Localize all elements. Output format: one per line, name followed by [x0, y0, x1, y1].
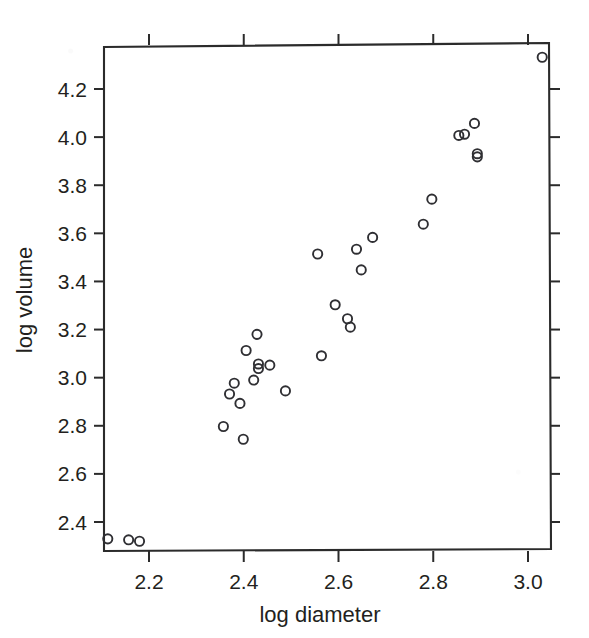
scatter-point	[124, 535, 133, 544]
y-axis-tick-group	[94, 89, 560, 522]
scatter-point	[331, 300, 340, 309]
y-axis-tick-label: 3.6	[58, 222, 87, 245]
y-axis-tick-label: 3.8	[58, 174, 87, 197]
scatter-point	[252, 330, 261, 339]
x-axis-title: log diameter	[259, 602, 380, 627]
scatter-point-group	[103, 53, 547, 546]
plot-canvas: 2.42.62.83.03.23.43.63.84.04.2 2.22.42.6…	[0, 0, 589, 638]
y-axis-tick-label: 2.4	[58, 511, 88, 534]
x-axis-tick-label-group: 2.22.42.62.83.0	[134, 570, 542, 593]
scatter-point	[235, 399, 244, 408]
scatter-point	[352, 245, 361, 254]
scatter-point	[427, 195, 436, 204]
y-axis-title: log volume	[12, 247, 37, 353]
y-axis-tick-label: 2.6	[58, 462, 87, 485]
scatter-point	[317, 351, 326, 360]
x-axis-tick-label: 2.4	[229, 570, 259, 593]
plot-frame-box	[104, 43, 551, 551]
scatter-point	[419, 220, 428, 229]
scatter-point	[538, 53, 547, 62]
scatter-point	[242, 346, 251, 355]
scatter-point	[313, 249, 322, 258]
scatter-point	[470, 119, 479, 128]
plot-frame	[104, 43, 551, 551]
x-axis-tick-group	[149, 34, 528, 562]
scatter-point	[357, 265, 366, 274]
scatter-point	[219, 422, 228, 431]
y-axis-tick-label: 4.2	[58, 78, 87, 101]
x-axis-tick-label: 2.8	[419, 570, 448, 593]
scatter-point	[460, 130, 469, 139]
scatter-point	[346, 323, 355, 332]
scatter-point	[265, 361, 274, 370]
y-axis-tick-label-group: 2.42.62.83.03.23.43.63.84.04.2	[58, 78, 88, 534]
y-axis-tick-label: 3.2	[58, 318, 87, 341]
y-axis-tick-label: 2.8	[58, 414, 87, 437]
scatter-point	[230, 379, 239, 388]
scatter-plot-figure: 2.42.62.83.03.23.43.63.84.04.2 2.22.42.6…	[0, 0, 589, 638]
y-axis-tick-label: 3.4	[58, 270, 88, 293]
scatter-point	[281, 386, 290, 395]
scatter-point	[135, 537, 144, 546]
scatter-point	[225, 389, 234, 398]
x-axis-tick-label: 2.2	[134, 570, 163, 593]
scatter-point	[239, 435, 248, 444]
y-axis-tick-label: 4.0	[58, 126, 87, 149]
y-axis-tick-label: 3.0	[58, 366, 87, 389]
scatter-point	[368, 233, 377, 242]
scatter-point	[249, 375, 258, 384]
x-axis-tick-label: 3.0	[513, 570, 542, 593]
x-axis-tick-label: 2.6	[324, 570, 353, 593]
